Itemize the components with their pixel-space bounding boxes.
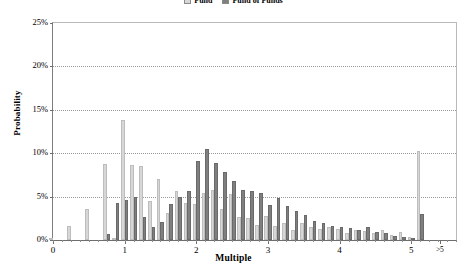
- y-tick-mark: [50, 197, 53, 198]
- bar: [349, 228, 353, 240]
- bar: [250, 191, 254, 240]
- gridline: [53, 110, 456, 111]
- x-tick-minor-mark: [313, 240, 314, 242]
- y-tick-label: 15%: [8, 105, 48, 114]
- y-tick-mark: [50, 153, 53, 154]
- x-tick-minor-mark: [89, 240, 90, 242]
- x-tick-minor-mark: [205, 240, 206, 242]
- x-tick-minor-mark: [196, 240, 197, 242]
- x-tick-minor-mark: [384, 240, 385, 242]
- bar: [152, 227, 156, 240]
- bar: [178, 197, 182, 240]
- x-tick-minor-mark: [357, 240, 358, 242]
- bar: [340, 227, 344, 240]
- x-tick-minor-mark: [143, 240, 144, 242]
- x-tick-minor-mark: [152, 240, 153, 242]
- bar: [304, 215, 308, 240]
- chart-legend: FundFund of Funds: [0, 0, 467, 6]
- x-tick-minor-mark: [268, 240, 269, 242]
- x-tick-minor-mark: [169, 240, 170, 242]
- bar: [322, 223, 326, 240]
- x-tick-minor-mark: [241, 240, 242, 242]
- bar: [67, 226, 71, 240]
- bar: [134, 197, 138, 240]
- bar: [366, 227, 370, 240]
- x-tick-minor-mark: [259, 240, 260, 242]
- x-tick-minor-mark: [304, 240, 305, 242]
- bar: [420, 214, 424, 240]
- bar: [313, 221, 317, 240]
- x-tick-minor-mark: [286, 240, 287, 242]
- x-tick-minor-mark: [107, 240, 108, 242]
- x-tick-minor-mark: [411, 240, 412, 242]
- x-tick-minor-mark: [295, 240, 296, 242]
- y-tick-mark: [50, 66, 53, 67]
- y-tick-mark: [50, 23, 53, 24]
- x-tick-minor-mark: [134, 240, 135, 242]
- x-tick-minor-mark: [71, 240, 72, 242]
- y-tick-label: 0%: [8, 235, 48, 244]
- x-tick-minor-mark: [349, 240, 350, 242]
- bar: [375, 232, 379, 240]
- x-tick-minor-mark: [232, 240, 233, 242]
- x-tick-label: 4: [325, 245, 355, 255]
- bar: [277, 198, 281, 240]
- bar: [169, 204, 173, 240]
- legend-entry: Fund: [184, 0, 212, 5]
- bar: [268, 205, 272, 240]
- x-tick-minor-mark: [125, 240, 126, 242]
- plot-area: 012345>5: [52, 22, 457, 241]
- x-tick-minor-mark: [322, 240, 323, 242]
- bar: [103, 164, 107, 240]
- y-tick-label: 25%: [8, 18, 48, 27]
- y-tick-mark: [50, 110, 53, 111]
- bar: [85, 209, 89, 240]
- x-tick-minor-mark: [456, 240, 457, 242]
- gridline: [53, 153, 456, 154]
- x-tick-label: 0: [38, 245, 68, 255]
- x-tick-minor-mark: [366, 240, 367, 242]
- x-tick-mark: [440, 240, 441, 244]
- x-tick-label: 5: [396, 245, 426, 255]
- bar: [196, 161, 200, 240]
- bar: [357, 230, 361, 240]
- legend-swatch-icon: [184, 0, 191, 4]
- legend-entry: Fund of Funds: [222, 0, 282, 5]
- x-tick-minor-mark: [160, 240, 161, 242]
- x-tick-minor-mark: [53, 240, 54, 242]
- x-tick-label: 3: [253, 245, 283, 255]
- y-tick-label: 5%: [8, 192, 48, 201]
- x-tick-minor-mark: [331, 240, 332, 242]
- bar: [143, 217, 147, 240]
- x-tick-minor-mark: [277, 240, 278, 242]
- x-tick-label: 2: [181, 245, 211, 255]
- x-tick-minor-mark: [98, 240, 99, 242]
- x-tick-minor-mark: [178, 240, 179, 242]
- x-tick-minor-mark: [402, 240, 403, 242]
- bar: [160, 222, 164, 240]
- bar: [205, 149, 209, 240]
- bar: [116, 203, 120, 240]
- bar: [214, 163, 218, 240]
- x-tick-minor-mark: [420, 240, 421, 242]
- x-tick-minor-mark: [393, 240, 394, 242]
- gridline: [53, 66, 456, 67]
- x-tick-minor-mark: [375, 240, 376, 242]
- bar: [125, 200, 129, 240]
- x-tick-minor-mark: [62, 240, 63, 242]
- x-tick-minor-mark: [340, 240, 341, 242]
- gridline: [53, 197, 456, 198]
- bar: [331, 226, 335, 240]
- x-tick-minor-mark: [250, 240, 251, 242]
- bar: [286, 206, 290, 240]
- x-tick-label: 1: [110, 245, 140, 255]
- x-tick-minor-mark: [116, 240, 117, 242]
- x-tick-minor-mark: [214, 240, 215, 242]
- y-tick-label: 10%: [8, 148, 48, 157]
- chart-figure: FundFund of Funds Probability Multiple 0…: [0, 0, 467, 269]
- legend-swatch-icon: [222, 0, 229, 4]
- legend-label: Fund: [194, 0, 212, 5]
- bar: [187, 191, 191, 240]
- y-tick-label: 20%: [8, 61, 48, 70]
- x-tick-minor-mark: [187, 240, 188, 242]
